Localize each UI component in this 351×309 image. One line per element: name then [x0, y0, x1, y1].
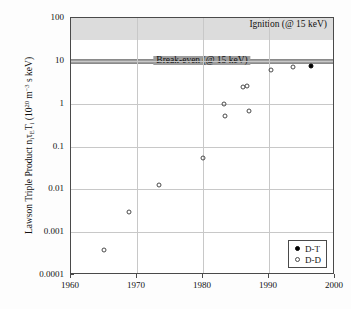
x-tick-mark	[202, 274, 203, 278]
y-tick-label: 1	[24, 98, 64, 108]
gridline-vertical	[137, 18, 138, 273]
legend: D-TD-D	[288, 240, 327, 268]
data-point-d-d	[291, 65, 296, 70]
gridline-horizontal	[71, 61, 333, 62]
x-tick-label: 2000	[325, 280, 343, 290]
legend-marker-d-d-icon	[292, 257, 302, 262]
x-tick-label: 1970	[127, 280, 145, 290]
data-point-d-t	[309, 64, 314, 69]
gridline-vertical	[203, 18, 204, 273]
data-point-d-d	[247, 108, 252, 113]
x-tick-mark	[334, 274, 335, 278]
data-point-d-d	[222, 101, 227, 106]
plot-area: Ignition (@ 15 keV)Break-even (@ 15 keV)…	[70, 17, 334, 274]
legend-marker-d-t-icon	[292, 246, 302, 251]
x-tick-mark	[268, 274, 269, 278]
data-point-d-d	[268, 68, 273, 73]
y-tick-label: 0.01	[24, 183, 64, 193]
gridline-horizontal	[71, 232, 333, 233]
data-point-d-d	[157, 183, 162, 188]
y-tick-label: 0.0001	[24, 269, 64, 279]
x-tick-label: 1960	[61, 280, 79, 290]
gridline-horizontal	[71, 189, 333, 190]
legend-label: D-D	[305, 255, 321, 265]
data-point-d-d	[223, 113, 228, 118]
data-point-d-d	[102, 248, 107, 253]
legend-entry-d-d: D-D	[292, 254, 321, 265]
y-tick-label: 0.001	[24, 226, 64, 236]
y-tick-label: 100	[24, 12, 64, 22]
legend-entry-d-t: D-T	[292, 243, 321, 254]
y-tick-label: 0.1	[24, 141, 64, 151]
x-tick-label: 1990	[259, 280, 277, 290]
data-point-d-d	[244, 83, 249, 88]
chart-figure: Lawson Triple Product niτETi (1020 m−3 s…	[0, 0, 351, 309]
x-tick-mark	[70, 274, 71, 278]
x-tick-label: 1980	[193, 280, 211, 290]
data-point-d-d	[127, 209, 132, 214]
gridline-vertical	[269, 18, 270, 273]
gridline-horizontal	[71, 104, 333, 105]
legend-label: D-T	[305, 244, 320, 254]
data-point-d-d	[201, 156, 206, 161]
x-tick-mark	[136, 274, 137, 278]
ignition-label: Ignition (@ 15 keV)	[249, 20, 327, 30]
y-tick-label: 10	[24, 55, 64, 65]
gridline-horizontal	[71, 147, 333, 148]
